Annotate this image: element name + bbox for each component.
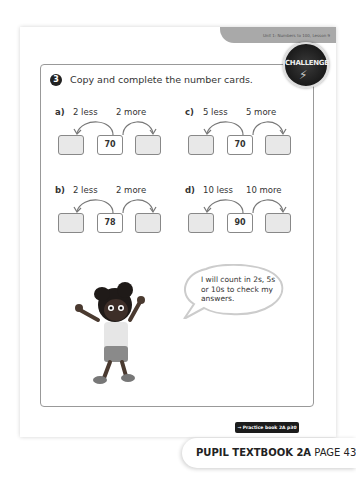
part-c: c) 5 less 5 more 70 [185, 107, 310, 167]
arrow-icons [185, 117, 295, 137]
practice-book-link[interactable]: → Practice book 2A p30 [235, 422, 299, 433]
arrow-icons [55, 117, 165, 137]
more-label: 10 more [246, 185, 282, 195]
number-card: 78 [97, 213, 123, 233]
more-label: 5 more [246, 107, 276, 117]
more-label: 2 more [116, 107, 146, 117]
book-title: PUPIL TEXTBOOK 2A [196, 447, 311, 458]
lightning-bolt-icon: ⚡ [299, 68, 307, 82]
textbook-page: Unit 1: Numbers to 100, Lesson 9 3 Copy … [20, 27, 336, 437]
challenge-badge-icon: CHALLENGE ⚡ [283, 42, 329, 88]
header-band: Unit 1: Numbers to 100, Lesson 9 [220, 27, 336, 43]
part-a: a) 2 less 2 more 70 [55, 107, 180, 167]
number-card: 70 [97, 135, 123, 155]
answer-card-more[interactable] [135, 135, 161, 155]
number-card: 70 [227, 135, 253, 155]
page-label: PAGE 43 [314, 447, 356, 458]
part-letter: d) [185, 185, 195, 195]
part-letter: a) [55, 107, 65, 117]
number-card: 90 [227, 213, 253, 233]
arrow-icons [185, 195, 295, 215]
answer-card-more[interactable] [135, 213, 161, 233]
answer-card-more[interactable] [265, 213, 291, 233]
less-label: 10 less [203, 185, 233, 195]
part-letter: b) [55, 185, 65, 195]
answer-card-less[interactable] [188, 135, 214, 155]
less-label: 2 less [73, 185, 98, 195]
speech-text: I will count in 2s, 5s or 10s to check m… [201, 275, 276, 304]
part-d: d) 10 less 10 more 90 [185, 185, 310, 245]
more-label: 2 more [116, 185, 146, 195]
question-title: Copy and complete the number cards. [70, 74, 253, 85]
less-label: 2 less [73, 107, 98, 117]
challenge-label: CHALLENGE [285, 59, 327, 67]
question-number: 3 [50, 74, 62, 86]
girl-character-illustration [70, 280, 170, 390]
part-b: b) 2 less 2 more 78 [55, 185, 180, 245]
answer-card-less[interactable] [58, 135, 84, 155]
part-letter: c) [185, 107, 194, 117]
arrow-icons [55, 195, 165, 215]
answer-card-less[interactable] [58, 213, 84, 233]
answer-card-less[interactable] [188, 213, 214, 233]
footer-page-label: PUPIL TEXTBOOK 2A PAGE 43 [182, 438, 356, 468]
answer-card-more[interactable] [265, 135, 291, 155]
unit-lesson-label: Unit 1: Numbers to 100, Lesson 9 [263, 33, 330, 38]
less-label: 5 less [203, 107, 228, 117]
